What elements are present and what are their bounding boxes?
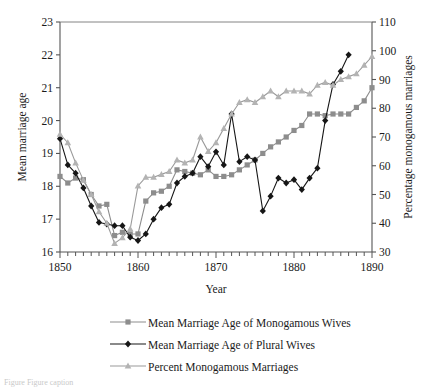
y2-axis-title: Percentage monogamous marriages bbox=[402, 55, 415, 219]
y-tick-label: 17 bbox=[42, 213, 54, 225]
series-marker-0 bbox=[260, 151, 265, 156]
series-marker-0 bbox=[338, 111, 343, 116]
series-marker-0 bbox=[151, 190, 156, 195]
series-marker-2 bbox=[275, 93, 282, 99]
y2-tick-label: 30 bbox=[379, 246, 391, 258]
series-marker-0 bbox=[245, 162, 250, 167]
series-marker-1 bbox=[346, 51, 352, 58]
series-marker-0 bbox=[57, 174, 62, 179]
x-tick-label: 1850 bbox=[49, 261, 72, 273]
series-marker-0 bbox=[213, 174, 218, 179]
series-marker-1 bbox=[96, 219, 102, 226]
legend-marker-0 bbox=[125, 319, 130, 324]
series-marker-0 bbox=[229, 172, 234, 177]
y-tick-label: 18 bbox=[42, 180, 54, 192]
series-line-0 bbox=[60, 88, 372, 236]
y2-tick-label: 70 bbox=[379, 131, 391, 143]
x-axis-title: Year bbox=[205, 283, 226, 295]
series-marker-2 bbox=[260, 93, 267, 99]
series-marker-0 bbox=[307, 111, 312, 116]
series-marker-1 bbox=[88, 203, 94, 210]
y-tick-label: 19 bbox=[42, 147, 54, 159]
series-marker-1 bbox=[80, 185, 86, 192]
series-marker-0 bbox=[120, 230, 125, 235]
series-marker-0 bbox=[198, 172, 203, 177]
y2-tick-label: 60 bbox=[379, 160, 391, 172]
legend-label-1: Mean Marriage Age of Plural Wives bbox=[148, 339, 316, 352]
x-tick-label: 1860 bbox=[127, 261, 150, 273]
series-marker-0 bbox=[291, 128, 296, 133]
series-marker-2 bbox=[174, 157, 181, 163]
series-marker-2 bbox=[267, 88, 274, 94]
y2-tick-label: 80 bbox=[379, 102, 391, 114]
series-marker-1 bbox=[275, 175, 281, 182]
series-marker-0 bbox=[315, 111, 320, 116]
y-tick-label: 22 bbox=[42, 49, 54, 61]
y-tick-label: 16 bbox=[42, 246, 54, 258]
y2-tick-label: 50 bbox=[379, 189, 391, 201]
y-tick-label: 21 bbox=[42, 82, 54, 94]
series-marker-0 bbox=[65, 180, 70, 185]
series-marker-2 bbox=[189, 157, 196, 163]
figure-container: 1617181920212223304050607080901001101850… bbox=[0, 0, 432, 389]
series-marker-0 bbox=[221, 174, 226, 179]
y-tick-label: 20 bbox=[42, 115, 54, 127]
series-marker-0 bbox=[276, 139, 281, 144]
legend-marker-1 bbox=[125, 341, 131, 348]
y-axis-title: Mean marriage age bbox=[16, 93, 29, 182]
series-marker-0 bbox=[167, 184, 172, 189]
series-marker-0 bbox=[159, 189, 164, 194]
legend-label-2: Percent Monogamous Marriages bbox=[148, 361, 299, 374]
series-line-1 bbox=[60, 55, 349, 241]
series-marker-0 bbox=[104, 202, 109, 207]
series-marker-1 bbox=[338, 68, 344, 75]
series-marker-0 bbox=[135, 231, 140, 236]
series-marker-1 bbox=[244, 153, 250, 160]
legend-label-0: Mean Marriage Age of Monogamous Wives bbox=[148, 317, 351, 330]
series-marker-0 bbox=[369, 85, 374, 90]
x-tick-label: 1890 bbox=[361, 261, 384, 273]
series-marker-1 bbox=[268, 193, 274, 200]
y2-tick-label: 90 bbox=[379, 74, 391, 86]
y2-tick-label: 110 bbox=[379, 16, 396, 28]
series-marker-0 bbox=[237, 167, 242, 172]
series-marker-2 bbox=[111, 240, 118, 246]
series-marker-2 bbox=[197, 134, 204, 140]
series-marker-1 bbox=[166, 201, 172, 208]
figure-caption: Figure Figure caption bbox=[4, 378, 73, 387]
series-marker-2 bbox=[57, 131, 64, 137]
series-marker-0 bbox=[362, 98, 367, 103]
series-marker-1 bbox=[236, 158, 242, 165]
series-marker-2 bbox=[213, 139, 220, 145]
line-chart: 1617181920212223304050607080901001101850… bbox=[0, 0, 432, 389]
y-tick-label: 23 bbox=[42, 16, 54, 28]
series-marker-2 bbox=[96, 208, 103, 214]
series-marker-2 bbox=[221, 125, 228, 131]
series-marker-1 bbox=[260, 208, 266, 215]
series-marker-0 bbox=[299, 123, 304, 128]
series-marker-2 bbox=[369, 53, 376, 59]
series-marker-0 bbox=[354, 105, 359, 110]
y2-tick-label: 100 bbox=[379, 45, 397, 57]
series-marker-0 bbox=[174, 167, 179, 172]
series-marker-2 bbox=[127, 226, 134, 232]
series-marker-2 bbox=[72, 159, 79, 165]
y2-tick-label: 40 bbox=[379, 217, 391, 229]
series-marker-0 bbox=[346, 111, 351, 116]
series-marker-0 bbox=[143, 198, 148, 203]
series-marker-1 bbox=[221, 162, 227, 169]
series-marker-1 bbox=[283, 180, 289, 187]
series-marker-0 bbox=[330, 111, 335, 116]
x-tick-label: 1880 bbox=[283, 261, 306, 273]
series-marker-1 bbox=[213, 148, 219, 155]
x-tick-label: 1870 bbox=[205, 261, 228, 273]
series-marker-0 bbox=[284, 134, 289, 139]
series-marker-2 bbox=[244, 96, 251, 102]
series-marker-2 bbox=[322, 79, 329, 85]
series-marker-0 bbox=[268, 144, 273, 149]
